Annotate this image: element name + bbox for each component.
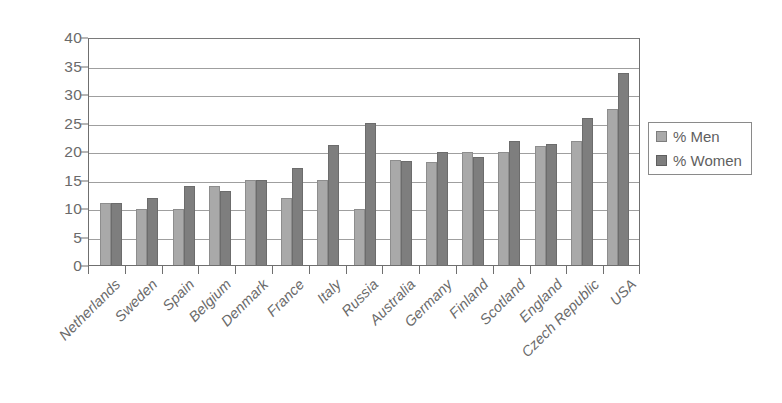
bar-men	[390, 160, 401, 265]
bar-women	[328, 145, 339, 265]
bar-group	[129, 39, 165, 265]
y-tick-label: 30	[64, 87, 82, 103]
bar-group	[564, 39, 600, 265]
bar-men	[173, 209, 184, 265]
x-tick-mark	[309, 266, 310, 274]
bar-group	[383, 39, 419, 265]
y-tick-mark	[81, 266, 88, 267]
y-tick-mark	[81, 95, 88, 96]
bar-chart: 4035302520151050 NetherlandsSwedenSpainB…	[0, 0, 782, 403]
x-tick-mark	[639, 266, 640, 274]
bar-group	[238, 39, 274, 265]
x-tick-mark	[198, 266, 199, 274]
bar-group	[455, 39, 491, 265]
bar-group	[346, 39, 382, 265]
bar-group	[202, 39, 238, 265]
bar-men	[426, 162, 437, 265]
bar-women	[365, 123, 376, 266]
bar-women	[220, 191, 231, 265]
x-tick-mark	[419, 266, 420, 274]
chart-legend: % Men % Women	[648, 122, 752, 175]
y-tick-mark	[81, 38, 88, 39]
bar-men	[136, 209, 147, 265]
x-tick-mark	[456, 266, 457, 274]
x-tick-mark	[235, 266, 236, 274]
bar-men	[245, 180, 256, 266]
bar-men	[462, 152, 473, 265]
bar-women	[509, 141, 520, 265]
y-tick-label: 20	[64, 144, 82, 160]
bar-women	[147, 198, 158, 265]
bar-men	[498, 152, 509, 265]
bar-men	[607, 109, 618, 265]
bar-men	[535, 146, 546, 265]
y-tick-label: 35	[64, 59, 82, 75]
legend-swatch-men-icon	[656, 131, 667, 142]
bar-men	[281, 198, 292, 265]
bar-women	[618, 73, 629, 265]
x-tick-mark	[530, 266, 531, 274]
y-tick-label: 10	[64, 201, 82, 217]
bar-group	[310, 39, 346, 265]
x-axis-labels: NetherlandsSwedenSpainBelgiumDenmarkFran…	[88, 276, 640, 396]
x-tick-mark	[162, 266, 163, 274]
x-tick-mark	[346, 266, 347, 274]
bar-men	[354, 209, 365, 265]
x-tick-mark	[493, 266, 494, 274]
bar-women	[437, 152, 448, 265]
bar-women	[184, 186, 195, 265]
y-tick-mark	[81, 66, 88, 67]
bar-men	[209, 186, 220, 265]
y-tick-mark	[81, 180, 88, 181]
legend-label-women: % Women	[673, 153, 742, 168]
bar-men	[100, 203, 111, 265]
y-tick-mark	[81, 209, 88, 210]
x-tick-mark	[272, 266, 273, 274]
legend-label-men: % Men	[673, 129, 720, 144]
plot-area	[88, 38, 640, 266]
legend-item-men: % Men	[656, 129, 742, 144]
bar-women	[292, 168, 303, 265]
bar-group	[93, 39, 129, 265]
bar-women	[111, 203, 122, 265]
bar-group	[165, 39, 201, 265]
legend-item-women: % Women	[656, 153, 742, 168]
y-tick-label: 25	[64, 116, 82, 132]
bar-women	[473, 157, 484, 265]
y-tick-mark	[81, 152, 88, 153]
x-tick-mark	[88, 266, 89, 274]
bar-women	[256, 180, 267, 266]
y-axis-labels: 4035302520151050	[48, 38, 82, 266]
y-tick-label: 15	[64, 173, 82, 189]
x-axis-ticks	[88, 266, 640, 275]
y-tick-label: 40	[64, 30, 82, 46]
y-tick-mark	[81, 123, 88, 124]
legend-swatch-women-icon	[656, 155, 667, 166]
bar-women	[582, 118, 593, 265]
bar-group	[491, 39, 527, 265]
bar-group	[600, 39, 636, 265]
bar-women	[401, 161, 412, 265]
bar-men	[317, 180, 328, 266]
y-tick-mark	[81, 237, 88, 238]
bar-group	[419, 39, 455, 265]
x-tick-mark	[603, 266, 604, 274]
bar-women	[546, 144, 557, 265]
bar-groups	[89, 39, 639, 265]
bar-men	[571, 141, 582, 265]
x-tick-mark	[125, 266, 126, 274]
bar-group	[527, 39, 563, 265]
x-tick-mark	[382, 266, 383, 274]
bar-group	[274, 39, 310, 265]
x-tick-mark	[566, 266, 567, 274]
